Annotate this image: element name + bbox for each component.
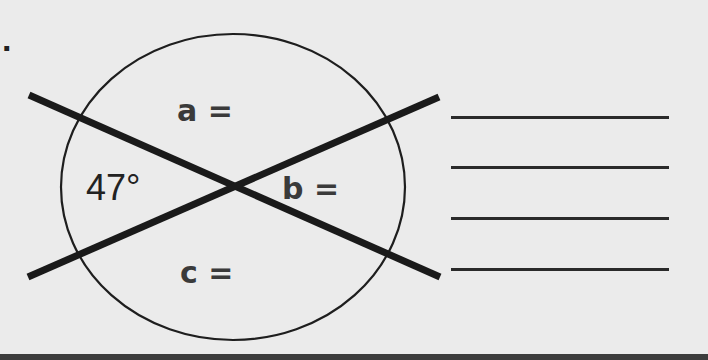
answer-blank-1[interactable] — [451, 116, 669, 119]
angle-b-label: b = — [282, 174, 339, 204]
angle-a-label: a = — [177, 96, 233, 126]
worksheet-problem: . a = 47° b = c = — [0, 0, 708, 360]
answer-blank-2[interactable] — [451, 166, 669, 169]
angle-c-label: c = — [180, 258, 233, 288]
answer-blank-3[interactable] — [451, 217, 669, 220]
page-bottom-edge — [0, 354, 708, 360]
given-angle-label: 47° — [86, 170, 140, 206]
answer-blank-4[interactable] — [451, 268, 669, 271]
